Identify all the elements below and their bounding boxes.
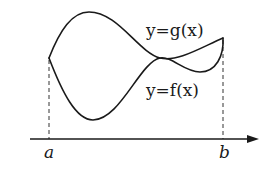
label-a: a <box>44 142 54 162</box>
label-f: y=f(x) <box>145 80 199 100</box>
label-g: y=g(x) <box>145 20 204 40</box>
area-between-curves-diagram: y=g(x) y=f(x) a b <box>0 0 271 174</box>
label-b: b <box>219 142 230 162</box>
x-axis-arrowhead <box>247 135 259 143</box>
